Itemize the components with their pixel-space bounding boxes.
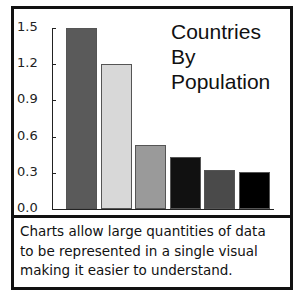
bar-4 bbox=[170, 157, 201, 209]
y-tick-label: 0.9 bbox=[17, 92, 47, 106]
y-tick bbox=[52, 64, 56, 65]
y-tick-label: 1.2 bbox=[17, 56, 47, 70]
caption-line-2: to be represented in a single visual bbox=[20, 242, 282, 262]
panel-divider bbox=[14, 215, 290, 218]
y-tick bbox=[52, 137, 56, 138]
bar-3 bbox=[135, 145, 166, 209]
y-tick bbox=[52, 28, 56, 29]
bar-1 bbox=[66, 28, 97, 209]
chart-title-line-2: By bbox=[171, 44, 270, 69]
y-axis bbox=[52, 28, 53, 209]
y-tick-label: 0.6 bbox=[17, 129, 47, 143]
bar-6 bbox=[239, 172, 270, 209]
chart-title-line-1: Countries bbox=[171, 19, 270, 44]
y-tick bbox=[52, 100, 56, 101]
y-tick bbox=[52, 173, 56, 174]
comic-panel-frame: Countries By Population 1.51.20.90.60.30… bbox=[11, 6, 293, 290]
y-tick-label: 0.3 bbox=[17, 165, 47, 179]
y-tick-label: 1.5 bbox=[17, 20, 47, 34]
caption-line-1: Charts allow large quantities of data bbox=[20, 222, 282, 242]
bar-2 bbox=[101, 64, 132, 209]
chart-title-line-3: Population bbox=[171, 69, 270, 94]
chart-title: Countries By Population bbox=[171, 19, 270, 94]
caption-line-3: making it easier to understand. bbox=[20, 261, 282, 281]
bar-chart: Countries By Population 1.51.20.90.60.30… bbox=[14, 9, 290, 215]
y-tick-label: 0.0 bbox=[17, 201, 47, 215]
bar-5 bbox=[204, 170, 235, 209]
x-axis bbox=[52, 209, 274, 210]
caption-text: Charts allow large quantities of data to… bbox=[20, 222, 282, 281]
y-tick bbox=[52, 209, 56, 210]
